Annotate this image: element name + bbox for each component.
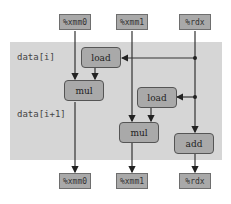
input-register-xmm1: %xmm1 bbox=[116, 14, 148, 30]
input-register-xmm0: %xmm0 bbox=[59, 14, 91, 30]
op-mul-2: mul bbox=[119, 122, 159, 143]
row-label-data-i-plus-1: data[i+1] bbox=[17, 109, 66, 119]
dataflow-diagram: %xmm0 %xmm1 %rdx data[i] data[i+1] load … bbox=[0, 0, 231, 204]
junction-dot bbox=[193, 95, 197, 99]
op-load-1: load bbox=[81, 47, 121, 68]
junction-dot bbox=[193, 56, 197, 60]
output-register-xmm0: %xmm0 bbox=[59, 173, 91, 189]
row-label-data-i: data[i] bbox=[17, 52, 55, 62]
op-add: add bbox=[174, 133, 214, 154]
op-mul-1: mul bbox=[64, 80, 104, 101]
output-register-xmm1: %xmm1 bbox=[116, 173, 148, 189]
input-register-rdx: %rdx bbox=[179, 14, 211, 30]
op-load-2: load bbox=[137, 87, 177, 108]
output-register-rdx: %rdx bbox=[179, 173, 211, 189]
